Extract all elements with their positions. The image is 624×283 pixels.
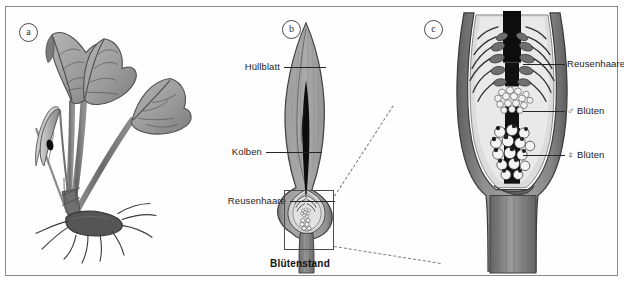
label-reusenhaare: Reusenhaare [52, 195, 286, 206]
label-huellblatt: Hüllblatt [52, 61, 280, 72]
caption-bluetenstand: Blütenstand [270, 258, 330, 269]
panel-letter-a: a [19, 23, 38, 42]
leader-reusenhaare-detail [523, 64, 565, 65]
label-male-flowers: ♂ Blüten [567, 105, 605, 116]
stalk-panel-c [490, 196, 536, 273]
leader-male-flowers [523, 111, 565, 112]
panel-a: a [6, 7, 202, 275]
label-reusenhaare-detail: Reusenhaare [567, 58, 624, 69]
leader-female-flowers [523, 155, 565, 156]
label-female-flowers: ♀ Blüten [567, 149, 605, 160]
figure-arum-inflorescence: a [0, 0, 624, 283]
leaf-right [131, 78, 191, 134]
label-kolben: Kolben [52, 146, 262, 157]
panel-b: b [202, 7, 410, 275]
panel-a-illustration [6, 7, 202, 275]
figure-frame: a [5, 6, 618, 276]
panel-letter-c: c [424, 20, 443, 39]
rhizome [66, 211, 123, 236]
leader-kolben [266, 152, 322, 153]
leader-huellblatt [284, 67, 326, 68]
panel-c: c [410, 7, 619, 275]
panel-letter-b: b [282, 20, 301, 39]
panel-c-illustration [410, 7, 619, 275]
magnification-selection-box[interactable] [284, 190, 334, 250]
